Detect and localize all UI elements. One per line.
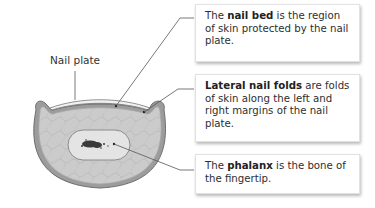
callout-prefix: The xyxy=(205,10,227,21)
nail-bed-callout: The nail bed is the region of skin prote… xyxy=(195,4,360,62)
nail-plate-label: Nail plate xyxy=(50,54,100,67)
callout-term: phalanx xyxy=(227,160,273,171)
callout-prefix: The xyxy=(205,160,227,171)
lateral-nail-folds-callout: Lateral nail folds are folds of skin alo… xyxy=(195,74,360,142)
callout-term: nail bed xyxy=(227,10,273,21)
callout-term: Lateral nail folds xyxy=(205,80,302,91)
nail-bed-leader xyxy=(116,18,194,106)
phalanx-callout: The phalanx is the bone of the fingertip… xyxy=(195,154,360,194)
